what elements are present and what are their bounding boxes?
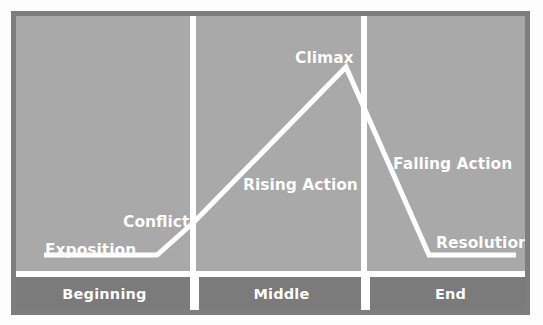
stage-label-end: End [435, 286, 466, 302]
arc-label-falling-action: Falling Action [393, 155, 512, 173]
plot-diagram: Beginning Middle End [0, 0, 543, 325]
arc-label-resolution: Resolution [436, 234, 525, 252]
stage-cell-middle: Middle [199, 277, 364, 310]
diagram-canvas: Beginning Middle End [16, 16, 525, 310]
diagram-frame: Beginning Middle End [11, 11, 530, 315]
stage-label-beginning: Beginning [62, 286, 146, 302]
arc-label-climax: Climax [295, 49, 354, 67]
stage-cell-end: End [370, 277, 525, 310]
arc-label-exposition: Exposition [45, 241, 136, 259]
stage-label-middle: Middle [253, 286, 309, 302]
arc-label-conflict: Conflict [123, 213, 189, 231]
stage-cell-beginning: Beginning [16, 277, 193, 310]
arc-label-rising-action: Rising Action [243, 176, 358, 194]
stage-band: Beginning Middle End [16, 277, 525, 310]
